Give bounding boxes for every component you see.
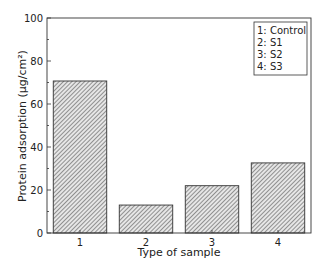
y-tick-label: 0 bbox=[37, 228, 43, 239]
x-tick-label: 4 bbox=[275, 237, 281, 248]
x-axis-label: Type of sample bbox=[137, 246, 221, 259]
bar bbox=[185, 186, 238, 233]
y-tick-label: 80 bbox=[30, 56, 43, 67]
bar-chart: 1234020406080100 Protein adsorption (µg/… bbox=[0, 0, 322, 275]
y-tick-label: 20 bbox=[30, 185, 43, 196]
legend-entry: 2: S1 bbox=[257, 37, 283, 48]
bar bbox=[251, 163, 304, 233]
y-tick-label: 100 bbox=[24, 13, 43, 24]
x-tick-label: 1 bbox=[77, 237, 83, 248]
legend-entry: 3: S2 bbox=[257, 49, 283, 60]
y-tick-label: 60 bbox=[30, 99, 43, 110]
legend-entry: 1: Control bbox=[257, 25, 306, 36]
bar bbox=[53, 81, 106, 233]
y-axis-label: Protein adsorption (µg/cm²) bbox=[16, 50, 29, 202]
legend-entry: 4: S3 bbox=[257, 61, 283, 72]
y-tick-label: 40 bbox=[30, 142, 43, 153]
bar bbox=[119, 205, 172, 233]
legend: 1: Control2: S13: S24: S3 bbox=[254, 22, 307, 75]
